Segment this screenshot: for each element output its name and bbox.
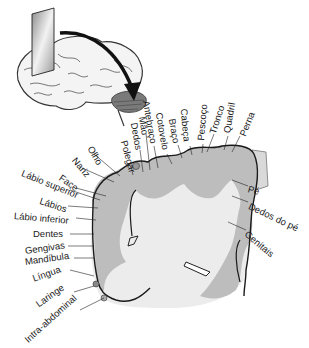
homunculus-diagram: Polegar Dedos Mão Antebraço Cotovelo Bra…: [0, 0, 309, 348]
brain-icon: [17, 8, 146, 126]
label-dentes: Dentes: [33, 229, 63, 239]
label-pe: Pé: [247, 184, 261, 196]
cortex-section: [91, 145, 268, 308]
label-cabeca: Cabeça: [179, 108, 191, 141]
